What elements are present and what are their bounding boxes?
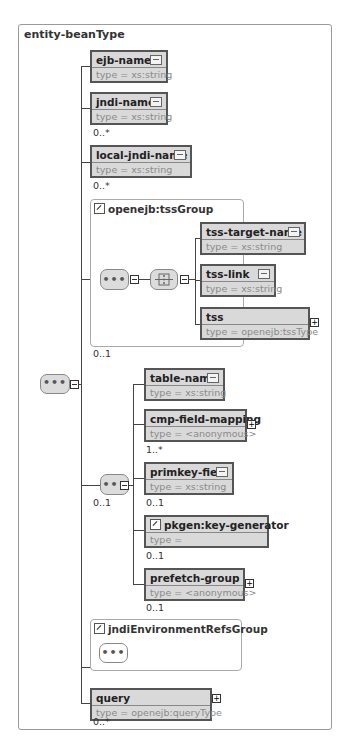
element-primkey-field[interactable]: primkey-field type = xs:string: [144, 462, 234, 495]
cardinality: 0..1: [146, 497, 164, 508]
cardinality: 0..*: [93, 716, 110, 727]
cardinality: 0..1: [146, 602, 164, 613]
element-type: type = <anonymous>: [146, 427, 245, 441]
expand-button[interactable]: +: [212, 694, 221, 703]
cardinality: 0..1: [93, 497, 111, 508]
documentation-icon: [174, 150, 186, 160]
cardinality: 0..1: [146, 550, 164, 561]
element-pkgen-key-generator[interactable]: pkgen:key-generator type =: [144, 515, 269, 548]
expand-button[interactable]: +: [310, 318, 319, 327]
element-type: type = xs:string: [146, 386, 223, 400]
element-type: type =: [146, 533, 267, 547]
inner-spine: [133, 384, 134, 584]
element-prefetch-group[interactable]: prefetch-group type = <anonymous>: [144, 568, 245, 601]
cardinality: 0..*: [93, 180, 110, 191]
documentation-icon: [150, 55, 162, 65]
connector: [133, 424, 144, 425]
connector: [133, 584, 144, 585]
group-title: openejb:tssGroup: [94, 203, 213, 215]
element-name: cmp-field-mapping: [146, 411, 245, 427]
element-type: type = openejb:tssType: [202, 325, 308, 339]
element-name: query: [92, 690, 210, 706]
documentation-icon: [207, 373, 219, 383]
choice-icon[interactable]: [150, 269, 178, 290]
jndi-sequence-icon[interactable]: •••: [99, 643, 128, 663]
element-name: tss: [202, 309, 308, 325]
reference-icon: [150, 519, 161, 530]
tss-sequence-icon[interactable]: •••: [100, 269, 129, 290]
inner-sequence-collapse-button[interactable]: [120, 481, 129, 490]
connector: [133, 384, 144, 385]
expand-button[interactable]: +: [245, 579, 254, 588]
cardinality: 0..1: [93, 348, 111, 359]
documentation-icon: [150, 97, 162, 107]
connector: [133, 530, 144, 531]
cardinality: 1..*: [146, 444, 163, 455]
element-name: pkgen:key-generator: [146, 517, 267, 533]
documentation-icon: [216, 467, 228, 477]
element-type: type = xs:string: [92, 163, 190, 177]
element-local-jndi-name[interactable]: local-jndi-name type = xs:string: [90, 145, 192, 178]
element-type: type = <anonymous>: [146, 586, 243, 600]
reference-icon: [94, 623, 105, 634]
element-type: type = xs:string: [92, 68, 166, 82]
documentation-icon: [258, 269, 270, 279]
tss-spine: [195, 238, 196, 324]
element-type: type = xs:string: [146, 480, 232, 494]
connector: [81, 485, 101, 486]
group-title-text: jndiEnvironmentRefsGroup: [108, 623, 268, 635]
element-type: type = xs:string: [202, 240, 304, 254]
element-cmp-field-mapping[interactable]: cmp-field-mapping type = <anonymous>: [144, 409, 247, 442]
element-type: type = xs:string: [92, 110, 166, 124]
element-jndi-name[interactable]: jndi-name type = xs:string: [90, 92, 168, 125]
cardinality: 0..*: [93, 127, 110, 138]
choice-glyph-icon: [151, 270, 177, 289]
diagram-title: entity-beanType: [24, 28, 125, 41]
element-name: prefetch-group: [146, 570, 243, 586]
connector: [133, 478, 144, 479]
connector: [188, 279, 195, 280]
element-type: type = xs:string: [202, 282, 274, 296]
element-tss-link[interactable]: tss-link type = xs:string: [200, 264, 276, 297]
element-tss[interactable]: tss type = openejb:tssType: [200, 307, 310, 340]
connector: [138, 279, 150, 280]
group-title: jndiEnvironmentRefsGroup: [94, 623, 268, 635]
element-tss-target-name[interactable]: tss-target-name type = xs:string: [200, 222, 306, 255]
element-ejb-name[interactable]: ejb-name type = xs:string: [90, 50, 168, 83]
group-title-text: openejb:tssGroup: [108, 203, 213, 215]
main-sequence-icon[interactable]: •••: [40, 374, 70, 394]
reference-icon: [94, 203, 105, 214]
element-table-name[interactable]: table-name type = xs:string: [144, 368, 225, 401]
documentation-icon: [288, 227, 300, 237]
element-name-text: pkgen:key-generator: [164, 519, 289, 531]
expand-button[interactable]: +: [247, 420, 256, 429]
